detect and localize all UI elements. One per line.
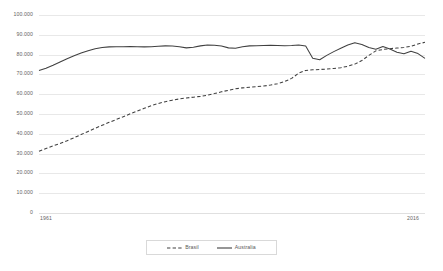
series-line-australia	[39, 43, 425, 71]
y-tick-label: 100.000	[14, 12, 33, 17]
legend-item-australia[interactable]: Australia	[217, 245, 256, 251]
y-tick-label: 40.000	[17, 131, 33, 136]
y-tick-label: 80.000	[17, 52, 33, 57]
y-axis: 010.00020.00030.00040.00050.00060.00070.…	[0, 0, 36, 228]
y-tick-label: 70.000	[17, 71, 33, 76]
x-axis: 1961 2016	[0, 216, 443, 230]
y-tick-label: 60.000	[17, 91, 33, 96]
y-tick-label: 50.000	[17, 111, 33, 116]
y-tick-label: 20.000	[17, 170, 33, 175]
y-tick-label: 0	[30, 210, 33, 215]
legend-item-brasil[interactable]: Brasil	[167, 245, 199, 251]
gridline	[39, 213, 425, 214]
x-tick-start: 1961	[40, 216, 52, 221]
x-tick-end: 2016	[407, 216, 419, 221]
series-line-brasil	[39, 42, 425, 151]
plot-area	[39, 15, 425, 213]
y-tick-label: 90.000	[17, 32, 33, 37]
legend-swatch-dashed	[167, 245, 182, 251]
legend-swatch-solid	[217, 245, 232, 251]
y-tick-label: 30.000	[17, 151, 33, 156]
legend-label: Brasil	[185, 245, 199, 250]
chart-legend: BrasilAustralia	[146, 240, 277, 255]
legend-label: Australia	[235, 245, 256, 250]
line-chart: 010.00020.00030.00040.00050.00060.00070.…	[0, 0, 443, 271]
y-tick-label: 10.000	[17, 190, 33, 195]
series-layer	[39, 15, 425, 213]
